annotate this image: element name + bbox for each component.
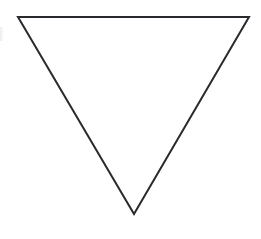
canvas-background <box>0 0 261 239</box>
drawing-canvas: Black outlined triangle pointing downwar… <box>0 0 261 239</box>
triangle-figure <box>0 0 261 239</box>
